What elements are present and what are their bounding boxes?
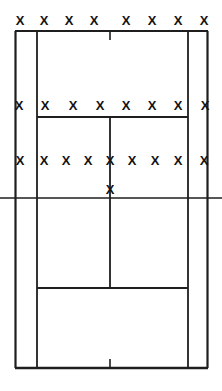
court-diagram: XXXXXXXXXXXXXXXXXXXXXXXXXX: [0, 0, 222, 391]
shot-marker-x-icon: X: [128, 153, 137, 168]
shot-marker-x-icon: X: [151, 153, 160, 168]
shot-marker-x-icon: X: [16, 153, 25, 168]
shot-marker-x-icon: X: [200, 13, 209, 28]
shot-marker-x-icon: X: [62, 153, 71, 168]
shot-marker-x-icon: X: [122, 98, 131, 113]
shot-marker-x-icon: X: [15, 98, 24, 113]
shot-marker-x-icon: X: [106, 153, 115, 168]
mid-court-marker-row: XXXXXXXXX: [16, 153, 209, 168]
shot-marker-x-icon: X: [84, 153, 93, 168]
shot-marker-x-icon: X: [174, 153, 183, 168]
court-diagram-canvas: XXXXXXXXXXXXXXXXXXXXXXXXXX: [0, 0, 222, 391]
shot-marker-x-icon: X: [40, 153, 49, 168]
shot-marker-x-icon: X: [41, 98, 50, 113]
shot-marker-x-icon: X: [200, 153, 209, 168]
shot-marker-x-icon: X: [106, 182, 115, 197]
shot-marker-x-icon: X: [148, 13, 157, 28]
shot-marker-x-icon: X: [40, 13, 49, 28]
shot-marker-x-icon: X: [201, 98, 210, 113]
shot-marker-x-icon: X: [90, 13, 99, 28]
shot-marker-x-icon: X: [174, 98, 183, 113]
shot-marker-x-icon: X: [16, 13, 25, 28]
shot-marker-x-icon: X: [148, 98, 157, 113]
shot-marker-x-icon: X: [69, 98, 78, 113]
net-centre-marker-row: X: [106, 182, 115, 197]
shot-marker-x-icon: X: [65, 13, 74, 28]
shot-marker-x-icon: X: [96, 98, 105, 113]
shot-marker-x-icon: X: [122, 13, 131, 28]
shot-marker-x-icon: X: [174, 13, 183, 28]
